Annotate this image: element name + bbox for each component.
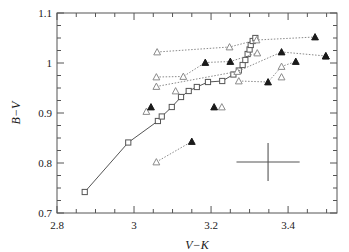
data-point-filled-triangle <box>148 104 155 110</box>
data-point-filled-triangle <box>322 53 329 59</box>
data-point-open-square <box>220 78 225 83</box>
data-point-open-triangle <box>278 63 285 69</box>
data-point-open-square <box>159 114 164 119</box>
series-line <box>157 37 315 52</box>
data-point-filled-triangle <box>265 79 272 85</box>
y-tick-label: 0.7 <box>38 207 52 219</box>
data-point-open-triangle <box>153 159 160 165</box>
data-point-filled-triangle <box>312 34 319 40</box>
data-point-open-square <box>205 79 210 84</box>
data-point-open-triangle <box>153 74 160 80</box>
data-point-open-square <box>194 84 199 89</box>
data-point-open-triangle <box>254 50 261 56</box>
y-tick-label: 0.9 <box>38 107 52 119</box>
y-axis-label: B−V <box>9 100 23 124</box>
y-tick-label: 1.1 <box>38 7 52 19</box>
data-point-open-square <box>178 94 183 99</box>
plot-frame <box>57 13 337 213</box>
data-point-open-triangle <box>172 88 179 94</box>
data-point-open-triangle <box>180 73 187 79</box>
x-tick-label: 2.8 <box>50 219 64 231</box>
data-point-filled-triangle <box>211 104 218 110</box>
x-tick-label: 3.2 <box>204 219 218 231</box>
data-point-open-square <box>186 88 191 93</box>
data-point-filled-triangle <box>278 49 285 55</box>
data-point-filled-triangle <box>202 59 209 65</box>
data-point-open-square <box>126 140 131 145</box>
y-tick-label: 1 <box>47 57 53 69</box>
series-line <box>156 142 191 163</box>
data-point-open-square <box>243 57 248 62</box>
x-tick-label: 3 <box>131 219 137 231</box>
x-axis-label: V−K <box>185 238 209 252</box>
scatter-plot: 2.833.23.40.70.80.911.1V−KB−V <box>0 0 349 252</box>
data-point-open-square <box>82 189 87 194</box>
data-point-filled-triangle <box>292 58 299 64</box>
x-tick-label: 3.4 <box>281 219 295 231</box>
data-point-open-square <box>240 62 245 67</box>
data-point-open-triangle <box>153 83 160 89</box>
data-point-open-triangle <box>235 78 242 84</box>
series-line <box>239 62 296 83</box>
figure-panel: 2.833.23.40.70.80.911.1V−KB−V <box>0 0 349 252</box>
data-point-open-triangle <box>218 104 225 110</box>
data-point-open-triangle <box>278 74 285 80</box>
data-point-filled-triangle <box>188 138 195 144</box>
data-point-open-square <box>169 104 174 109</box>
data-point-open-triangle <box>154 49 161 55</box>
y-tick-label: 0.8 <box>38 157 52 169</box>
